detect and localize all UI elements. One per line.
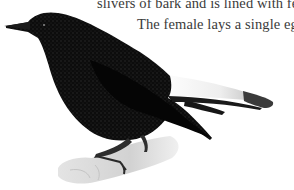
bird-eye	[43, 24, 45, 26]
tail-white-patch	[160, 74, 246, 100]
perch-rock	[58, 136, 179, 184]
bird-illustration	[0, 0, 294, 190]
